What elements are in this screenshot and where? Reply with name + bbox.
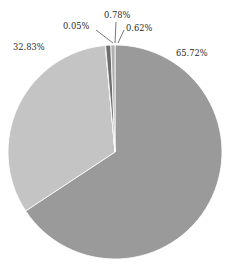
pie-leader-lines-group xyxy=(96,22,124,43)
pie-slice-label-1: 65.72% xyxy=(176,48,208,58)
pie-slice-label-2: 32.83% xyxy=(13,42,45,52)
pie-chart-canvas: 65.72%32.83%0.05%0.78%0.62% xyxy=(0,0,228,269)
pie-slice-label-4: 0.78% xyxy=(104,10,130,20)
pie-leader-line-5 xyxy=(118,30,124,43)
pie-slice-label-5: 0.62% xyxy=(126,23,152,33)
pie-chart-figure: 65.72%32.83%0.05%0.78%0.62% xyxy=(0,0,228,269)
pie-leader-line-4 xyxy=(115,22,116,43)
pie-slices-group xyxy=(8,45,222,259)
pie-leader-line-3 xyxy=(96,30,113,43)
pie-slice-label-3: 0.05% xyxy=(63,21,89,31)
